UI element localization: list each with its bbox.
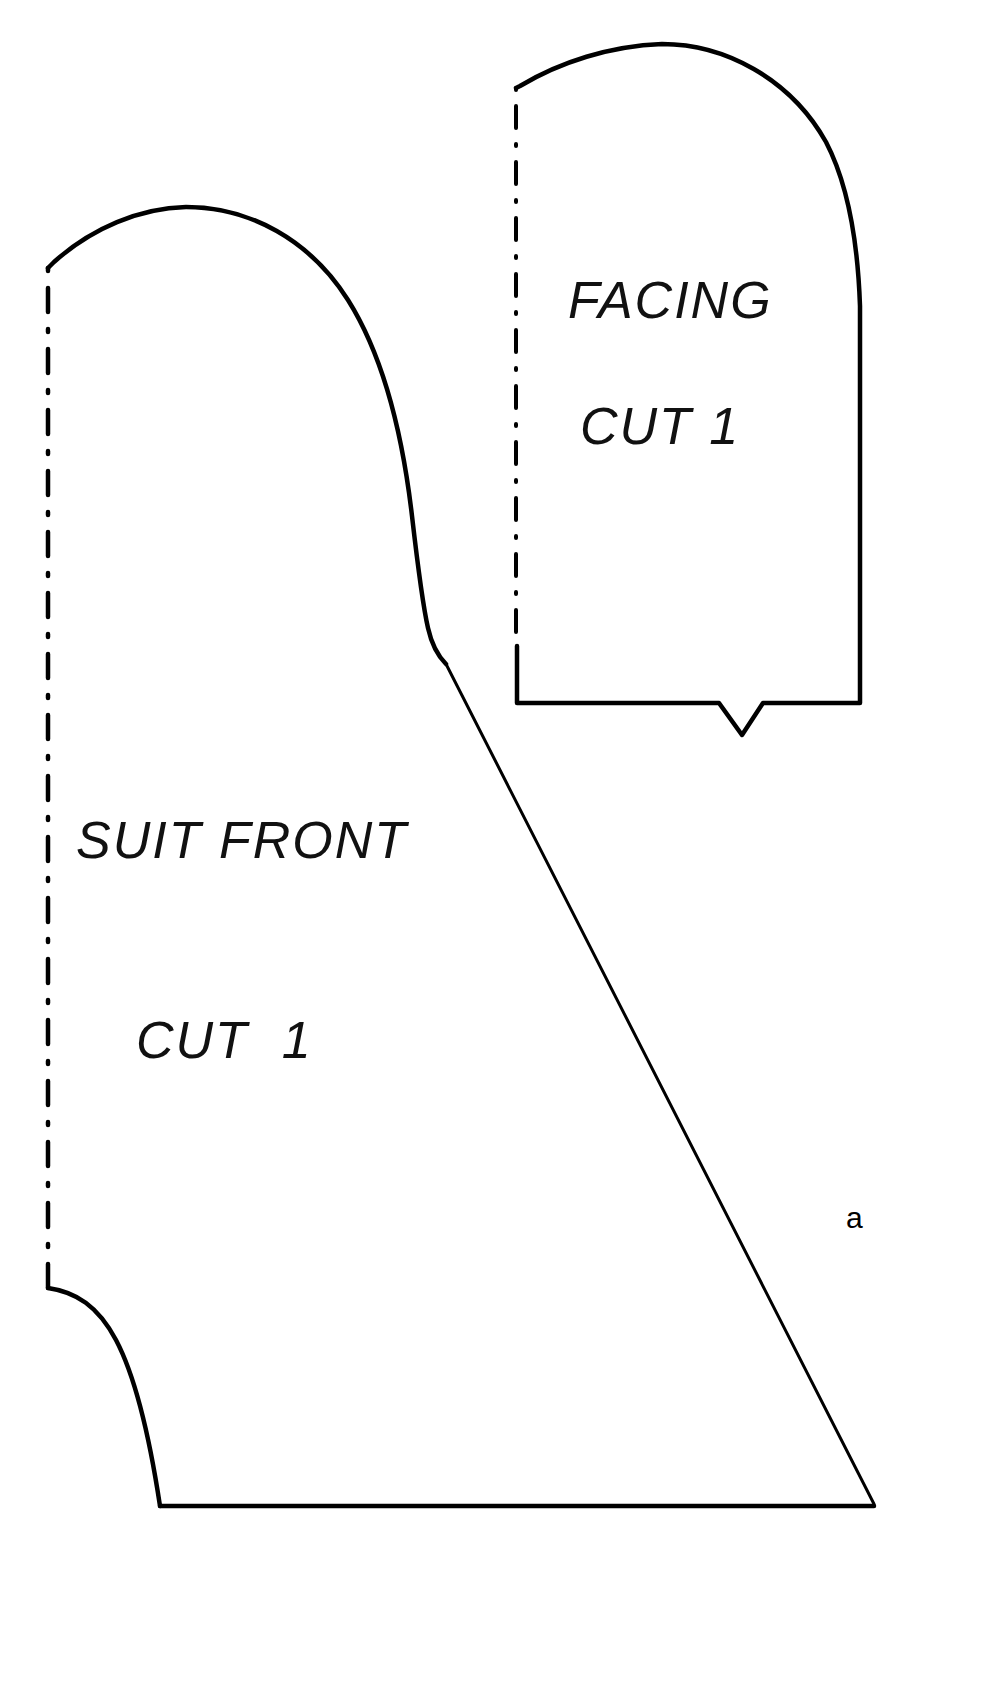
suit-front-cut-label: CUT 1 xyxy=(136,1011,313,1069)
suit-front-side-seam xyxy=(446,664,874,1504)
pattern-drawing-canvas: FACING CUT 1 SUIT FRONT CUT 1 a xyxy=(0,0,984,1700)
seam-marker-label: a xyxy=(846,1201,863,1234)
suit-front-name-label: SUIT FRONT xyxy=(76,811,409,869)
facing-name-label: FACING xyxy=(568,271,773,329)
suit-front-hem-curve xyxy=(48,1288,160,1506)
facing-cut-label: CUT 1 xyxy=(580,397,740,455)
suit-front-upper-outline xyxy=(48,207,446,664)
facing-piece xyxy=(516,44,860,735)
facing-cut-outline xyxy=(516,44,860,735)
pattern-sheet: FACING CUT 1 SUIT FRONT CUT 1 a xyxy=(0,0,984,1700)
